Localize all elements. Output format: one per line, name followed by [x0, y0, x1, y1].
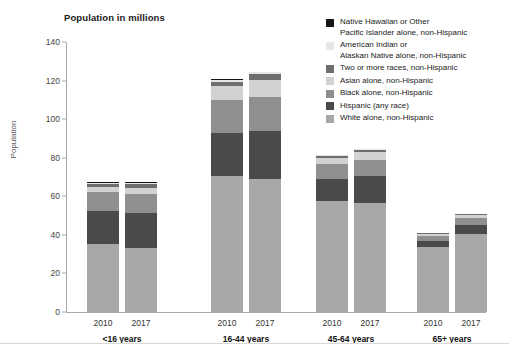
legend-label: Two or more races, non-Hispanic	[340, 63, 457, 74]
legend-swatch-icon	[326, 115, 334, 123]
legend-swatch-icon	[326, 90, 334, 98]
figure-root: Population in millions Population 020406…	[0, 0, 509, 363]
bar-segment	[87, 244, 119, 312]
bar-segment	[211, 100, 243, 133]
bar-segment	[316, 164, 348, 179]
y-axis-line	[66, 42, 67, 312]
x-tick-label-year: 2017	[243, 318, 287, 328]
legend-item[interactable]: White alone, non-Hispanic	[326, 113, 506, 124]
legend-item[interactable]: American Indian or Alaskan Native alone,…	[326, 40, 506, 61]
legend-label: American Indian or Alaskan Native alone,…	[340, 40, 466, 61]
legend-label: White alone, non-Hispanic	[340, 113, 433, 124]
bar-segment	[125, 213, 157, 249]
legend: Native Hawaiian or Other Pacific Islande…	[326, 17, 506, 126]
bar-segment	[316, 201, 348, 312]
bar-segment	[87, 192, 119, 210]
bar-segment	[354, 203, 386, 312]
x-tick-label-year: 2017	[449, 318, 493, 328]
bar-45-64-years-2017[interactable]	[354, 149, 386, 312]
x-axis-line	[66, 312, 486, 313]
bar-segment	[354, 152, 386, 160]
bar-segment	[455, 234, 487, 312]
legend-item[interactable]: Black alone, non-Hispanic	[326, 88, 506, 99]
bar-45-64-years-2010[interactable]	[316, 155, 348, 312]
legend-swatch-icon	[326, 42, 334, 50]
y-tick-mark	[62, 80, 66, 81]
bar-segment	[354, 160, 386, 176]
bar-segment	[249, 131, 281, 179]
legend-swatch-icon	[326, 77, 334, 85]
legend-item[interactable]: Asian alone, non-Hispanic	[326, 76, 506, 87]
y-tick-mark	[62, 157, 66, 158]
bar-segment	[455, 225, 487, 234]
bar-segment	[249, 80, 281, 97]
bar-segment	[211, 86, 243, 100]
y-tick-label: 140	[20, 37, 60, 47]
bar-65-years-2010[interactable]	[417, 233, 449, 312]
y-tick-label: 20	[20, 268, 60, 278]
y-tick-label: 120	[20, 76, 60, 86]
chart-title: Population in millions	[64, 12, 165, 23]
bar-segment	[87, 211, 119, 244]
y-tick-label: 40	[20, 230, 60, 240]
bar-segment	[211, 133, 243, 176]
bar-65-years-2017[interactable]	[455, 214, 487, 312]
y-tick-mark	[62, 196, 66, 197]
bar-segment	[125, 248, 157, 312]
bar-16-44-years-2010[interactable]	[211, 79, 243, 312]
legend-swatch-icon	[326, 19, 334, 27]
y-tick-mark	[62, 234, 66, 235]
bar-segment	[417, 247, 449, 312]
y-tick-label: 0	[20, 307, 60, 317]
y-tick-label: 60	[20, 191, 60, 201]
bar-segment	[249, 97, 281, 131]
y-axis-title: Population	[9, 110, 18, 170]
bar-16-44-years-2017[interactable]	[249, 72, 281, 312]
x-tick-label-year: 2017	[119, 318, 163, 328]
legend-swatch-icon	[326, 65, 334, 73]
bar-segment	[316, 179, 348, 201]
x-tick-label-year: 2017	[348, 318, 392, 328]
legend-item[interactable]: Hispanic (any race)	[326, 101, 506, 112]
caption-divider	[0, 343, 509, 344]
bar-segment	[354, 176, 386, 203]
legend-label: Native Hawaiian or Other Pacific Islande…	[340, 17, 467, 38]
bar-segment	[211, 176, 243, 312]
y-tick-mark	[62, 42, 66, 43]
legend-label: Black alone, non-Hispanic	[340, 88, 433, 99]
bar--16-years-2010[interactable]	[87, 182, 119, 312]
y-tick-label: 100	[20, 114, 60, 124]
y-tick-mark	[62, 119, 66, 120]
legend-item[interactable]: Two or more races, non-Hispanic	[326, 63, 506, 74]
y-tick-mark	[62, 273, 66, 274]
y-tick-mark	[62, 312, 66, 313]
bar-segment	[249, 179, 281, 312]
y-tick-label: 80	[20, 153, 60, 163]
bar--16-years-2017[interactable]	[125, 182, 157, 312]
legend-label: Asian alone, non-Hispanic	[340, 76, 433, 87]
bar-segment	[125, 194, 157, 212]
legend-item[interactable]: Native Hawaiian or Other Pacific Islande…	[326, 17, 506, 38]
legend-label: Hispanic (any race)	[340, 101, 409, 112]
legend-swatch-icon	[326, 102, 334, 110]
